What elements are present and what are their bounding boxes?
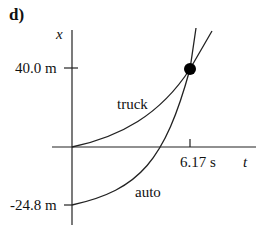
- auto-curve: [72, 28, 196, 205]
- truck-curve: [72, 31, 212, 147]
- intersection-point: [184, 63, 196, 75]
- position-time-graph: [0, 0, 266, 235]
